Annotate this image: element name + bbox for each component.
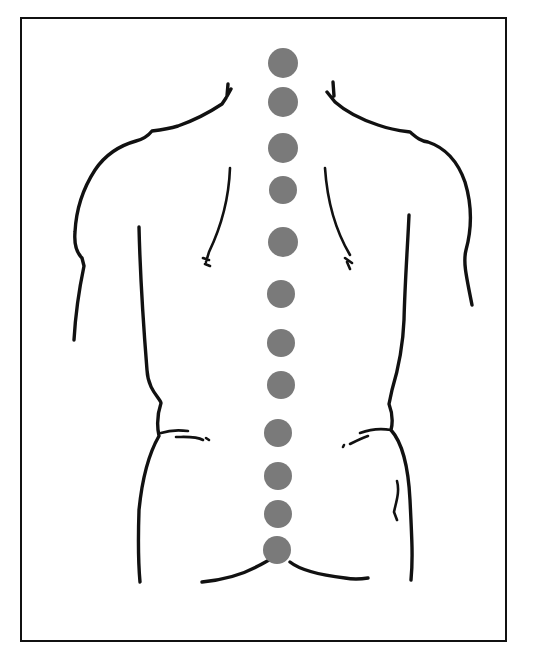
spine-dot xyxy=(267,371,295,399)
diagram-canvas xyxy=(0,0,560,661)
spine-dot xyxy=(264,462,292,490)
back-spine-diagram: Back view of human torso outline with do… xyxy=(0,0,560,661)
spine-dot xyxy=(263,536,291,564)
spine-dot xyxy=(264,419,292,447)
spine-dot xyxy=(264,500,292,528)
spine-dot xyxy=(268,227,298,257)
spine-dot xyxy=(269,176,297,204)
spine-dot xyxy=(267,280,295,308)
spine-dot xyxy=(267,329,295,357)
spine-dot xyxy=(268,133,298,163)
spine-dot xyxy=(268,87,298,117)
spine-dot xyxy=(268,48,298,78)
